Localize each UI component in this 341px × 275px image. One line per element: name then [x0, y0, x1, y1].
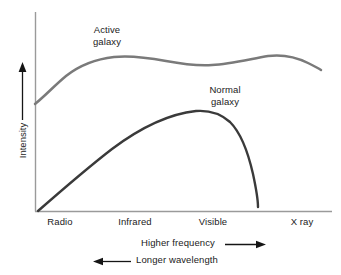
plot-area	[0, 0, 341, 275]
longer-wavelength-left-arrow-icon	[93, 258, 131, 265]
annotation-longer-wavelength: Longer wavelength	[136, 254, 218, 265]
curve-label-active-galaxy-line2: galaxy	[93, 36, 121, 47]
x-tick-label-infrared: Infrared	[105, 216, 165, 227]
x-tick-label-radio: Radio	[30, 216, 90, 227]
curve-label-active-galaxy-line1: Active	[94, 24, 120, 35]
annotation-higher-frequency: Higher frequency	[141, 237, 215, 248]
curve-label-normal-galaxy-line1: Normal	[209, 84, 240, 95]
curve-label-normal-galaxy: Normal galaxy	[196, 84, 254, 107]
x-tick-label-visible: Visible	[183, 216, 243, 227]
curve-normal-galaxy	[38, 111, 258, 211]
x-tick-label-xray: X ray	[272, 216, 332, 227]
y-axis-title: Intensity	[17, 111, 28, 171]
curve-label-active-galaxy: Active galaxy	[78, 24, 136, 47]
higher-frequency-right-arrow-icon	[225, 241, 266, 248]
curve-label-normal-galaxy-line2: galaxy	[211, 96, 239, 107]
curve-active-galaxy	[35, 55, 321, 104]
figure-container: Active galaxy Normal galaxy Intensity Ra…	[0, 0, 341, 275]
